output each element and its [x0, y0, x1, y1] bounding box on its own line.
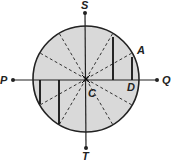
- label-A: A: [137, 45, 145, 56]
- point-P: [11, 78, 15, 82]
- point-Q: [155, 78, 159, 82]
- label-S: S: [81, 0, 88, 11]
- diagram-canvas: [0, 0, 171, 161]
- point-S: [83, 11, 87, 15]
- label-T: T: [82, 151, 89, 161]
- label-Q: Q: [162, 75, 171, 86]
- label-P: P: [0, 75, 7, 86]
- circle-diagram: S T P Q A C D: [0, 0, 171, 161]
- label-C: C: [88, 88, 96, 99]
- label-D: D: [127, 82, 135, 93]
